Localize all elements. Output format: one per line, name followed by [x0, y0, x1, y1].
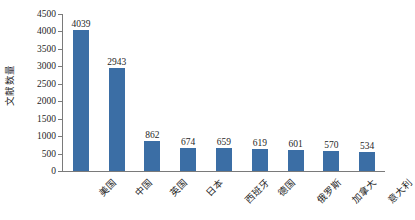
x-axis-category-label: 西班牙 — [241, 175, 272, 206]
y-axis-tick-mark — [58, 171, 62, 172]
x-axis-category-label: 日本 — [202, 175, 226, 199]
bar-group: 534 — [349, 14, 385, 171]
y-axis-tick-label: 500 — [42, 149, 56, 159]
bar-value-label: 619 — [253, 138, 267, 148]
bar — [216, 148, 232, 171]
y-axis-tick-label: 1000 — [37, 131, 56, 141]
bar-group: 862 — [135, 14, 171, 171]
x-axis-line — [62, 171, 385, 172]
bar — [323, 151, 339, 171]
bar — [144, 141, 160, 171]
bar — [252, 149, 268, 171]
bar — [359, 152, 375, 171]
x-axis-category-label: 加拿大 — [348, 175, 379, 206]
plot-area: 450040003500300025002000150010005000 403… — [62, 14, 385, 172]
bar-group: 659 — [206, 14, 242, 171]
bar-value-label: 570 — [324, 140, 338, 150]
x-axis-category-labels: 美国中国英国日本西班牙德国俄罗斯加拿大意大利 — [63, 173, 385, 220]
x-axis-category-label: 英国 — [166, 175, 190, 199]
bar-value-label: 674 — [181, 137, 195, 147]
bar-group: 674 — [170, 14, 206, 171]
y-axis-tick-label: 3000 — [37, 61, 56, 71]
bar-group: 601 — [278, 14, 314, 171]
y-axis-tick-mark — [58, 154, 62, 155]
y-axis-tick-mark — [58, 49, 62, 50]
y-axis-title: 文献数量 — [2, 57, 16, 113]
y-axis-tick-label: 2500 — [37, 79, 56, 89]
bar-value-label: 4039 — [71, 19, 90, 29]
bar-group: 4039 — [63, 14, 99, 171]
y-axis-tick-mark — [58, 136, 62, 137]
y-axis-tick-label: 2000 — [37, 96, 56, 106]
bar — [180, 148, 196, 172]
bar — [288, 150, 304, 171]
y-axis-tick-label: 1500 — [37, 114, 56, 124]
y-axis-tick-mark — [58, 31, 62, 32]
bar-value-label: 534 — [360, 141, 374, 151]
x-axis-category-label: 中国 — [131, 175, 155, 199]
y-axis-tick-label: 0 — [51, 166, 56, 176]
y-axis-tick-label: 4000 — [37, 26, 56, 36]
bar-value-label: 862 — [145, 130, 159, 140]
y-axis-tick-label: 4500 — [37, 9, 56, 19]
x-axis-category-label: 美国 — [95, 175, 119, 199]
bar-group: 2943 — [99, 14, 135, 171]
y-axis-tick-mark — [58, 101, 62, 102]
y-axis-tick-mark — [58, 84, 62, 85]
bars-layer: 40392943862674659619601570534 — [63, 14, 385, 171]
x-axis-category-label: 德国 — [274, 175, 298, 199]
bar — [109, 68, 125, 171]
bar-group: 619 — [242, 14, 278, 171]
bar-value-label: 601 — [288, 139, 302, 149]
y-axis-tick-label: 3500 — [37, 44, 56, 54]
bar — [73, 30, 89, 171]
y-axis-tick-mark — [58, 66, 62, 67]
x-axis-category-label: 俄罗斯 — [312, 175, 343, 206]
bar-group: 570 — [313, 14, 349, 171]
y-axis-tick-mark — [58, 14, 62, 15]
x-axis-category-label: 意大利 — [384, 175, 415, 206]
y-axis-tick-mark — [58, 119, 62, 120]
bar-value-label: 2943 — [107, 57, 126, 67]
bar-value-label: 659 — [217, 137, 231, 147]
